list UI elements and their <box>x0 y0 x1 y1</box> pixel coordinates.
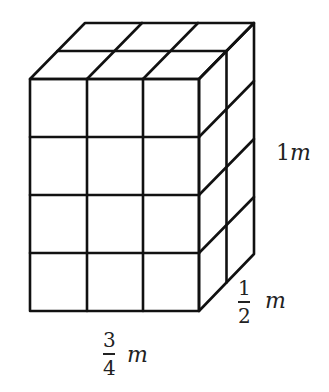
cuboid-diagram <box>0 0 329 392</box>
fraction-bar <box>238 301 250 303</box>
depth-unit: m <box>265 290 286 312</box>
height-label: 1m <box>276 142 311 164</box>
width-denominator: 4 <box>103 358 116 378</box>
depth-denominator: 2 <box>238 306 251 326</box>
depth-numerator: 1 <box>238 278 251 298</box>
height-value: 1 <box>276 140 290 165</box>
fraction-bar <box>103 353 115 355</box>
width-fraction: 3 4 <box>103 330 116 378</box>
height-unit: m <box>290 140 311 165</box>
width-unit: m <box>127 344 148 366</box>
width-numerator: 3 <box>103 330 116 350</box>
depth-fraction: 1 2 <box>238 278 251 326</box>
